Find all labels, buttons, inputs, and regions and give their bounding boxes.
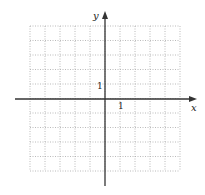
coordinate-plane: y x 1 1 <box>0 0 205 195</box>
y-axis-arrow-icon <box>102 11 108 19</box>
x-axis-label: x <box>191 102 197 113</box>
y-tick-label: 1 <box>97 81 103 91</box>
y-axis-label: y <box>92 10 99 21</box>
x-axis <box>15 96 197 102</box>
x-tick-label: 1 <box>118 101 124 111</box>
